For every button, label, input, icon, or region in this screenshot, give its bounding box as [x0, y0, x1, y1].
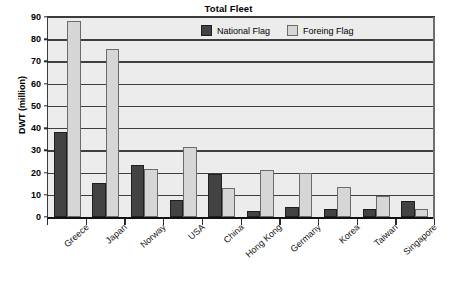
y-axis-tick-label: 90: [2, 12, 48, 22]
x-axis-category-label: Taiwan: [372, 222, 400, 248]
x-axis-category-label: Hong Kong: [244, 222, 284, 260]
y-axis-tick-label: 50: [2, 101, 48, 111]
legend-item: National Flag: [201, 25, 270, 36]
bar-group: [241, 17, 280, 217]
bar-foreing-flag: [222, 188, 236, 217]
bar-group: [164, 17, 203, 217]
bar-foreing-flag: [415, 209, 429, 217]
x-axis-category-label: Greece: [62, 222, 91, 249]
chart-title: Total Fleet: [0, 3, 457, 14]
bar-national-flag: [401, 201, 415, 217]
bar-foreing-flag: [337, 187, 351, 217]
y-axis-tick-label: 20: [2, 168, 48, 178]
bar-national-flag: [92, 183, 106, 217]
chart-figure: Total Fleet DWT (million) 90807060504030…: [0, 0, 457, 285]
chart-legend: National FlagForeing Flag: [198, 24, 357, 37]
bar-foreing-flag: [183, 147, 197, 217]
y-axis-tick-label: 70: [2, 56, 48, 66]
bar-national-flag: [324, 209, 338, 217]
bar-national-flag: [170, 200, 184, 217]
x-axis-category-label: Germany: [288, 222, 322, 254]
bar-national-flag: [247, 211, 261, 217]
x-axis-category-label: Korea: [337, 222, 362, 246]
bar-group: [48, 17, 87, 217]
bar-foreing-flag: [299, 173, 313, 217]
y-axis-tick-label: 10: [2, 190, 48, 200]
legend-swatch-foreign: [287, 25, 298, 36]
y-axis-tick-label: 60: [2, 79, 48, 89]
legend-label: Foreing Flag: [303, 26, 354, 36]
plot-top-border: [47, 16, 435, 17]
x-axis-category-label: USA: [186, 222, 206, 242]
bar-foreing-flag: [260, 170, 274, 217]
bar-foreing-flag: [106, 49, 120, 217]
bar-groups: [48, 17, 434, 217]
bar-foreing-flag: [376, 196, 390, 217]
x-axis-category-label: Singapore: [401, 222, 438, 257]
bar-group: [280, 17, 319, 217]
bar-group: [395, 17, 434, 217]
y-axis-tick-label: 80: [2, 34, 48, 44]
legend-item: Foreing Flag: [287, 25, 354, 36]
bar-foreing-flag: [144, 169, 158, 217]
bar-group: [202, 17, 241, 217]
legend-swatch-national: [201, 25, 212, 36]
x-axis-labels: GreeceJapanNorwayUSAChinaHong KongGerman…: [47, 222, 434, 284]
bar-national-flag: [363, 209, 377, 217]
bar-group: [125, 17, 164, 217]
plot-right-border: [433, 17, 434, 219]
bar-group: [318, 17, 357, 217]
y-axis-tick-label: 0: [2, 212, 48, 222]
bar-national-flag: [208, 174, 222, 217]
x-axis-category-label: China: [221, 222, 245, 245]
x-axis-category-label: Norway: [138, 222, 167, 250]
x-axis-category-label: Japan: [104, 222, 129, 246]
bar-national-flag: [54, 132, 68, 217]
bar-group: [357, 17, 396, 217]
legend-label: National Flag: [217, 26, 270, 36]
y-axis-tick-label: 40: [2, 123, 48, 133]
y-axis-tick-label: 30: [2, 145, 48, 155]
bar-national-flag: [285, 207, 299, 217]
bar-group: [87, 17, 126, 217]
bar-foreing-flag: [67, 21, 81, 217]
bar-national-flag: [131, 165, 145, 217]
plot-area: 9080706050403020100: [47, 17, 434, 219]
